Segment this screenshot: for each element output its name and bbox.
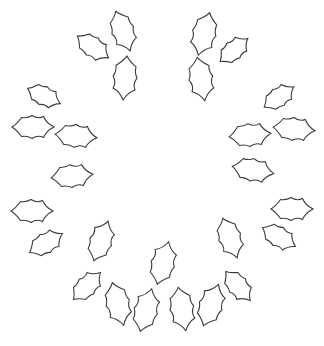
holly-leaf-outline [11,200,53,223]
holly-leaf-outline [50,163,94,189]
holly-leaf-icon [257,219,300,256]
holly-leaf-outline [111,55,139,101]
holly-leaf-icon [83,217,119,264]
holly-wreath-canvas [0,0,324,346]
holly-leaf-icon [212,214,248,261]
holly-leaf-icon [214,31,254,69]
holly-leaf-icon [24,225,67,262]
holly-leaf-outline [271,198,313,221]
holly-leaf-icon [66,265,108,307]
holly-leaf-outline [54,123,98,149]
holly-leaf-icon [11,200,53,223]
holly-leaf-icon [71,28,114,67]
holly-leaf-outline [24,225,67,262]
holly-leaf-outline [214,31,254,69]
holly-leaf-outline [257,219,300,256]
holly-leaf-icon [272,116,316,142]
holly-leaf-icon [50,163,94,189]
holly-leaf-outline [71,28,114,67]
holly-wreath [0,0,324,346]
holly-leaf-icon [111,55,139,101]
holly-leaf-icon [54,123,98,149]
holly-leaf-icon [12,116,54,139]
holly-leaf-outline [272,116,316,142]
holly-leaf-icon [166,285,197,332]
holly-leaf-outline [24,79,65,112]
holly-leaf-outline [105,7,141,54]
holly-leaf-icon [185,55,216,102]
holly-leaf-icon [259,79,300,116]
holly-leaf-outline [101,280,136,329]
holly-leaf-outline [212,214,248,261]
holly-leaf-outline [166,285,197,332]
holly-leaf-outline [228,122,272,148]
holly-leaf-outline [185,55,216,102]
holly-leaf-outline [230,155,275,185]
holly-leaf-icon [24,79,65,112]
holly-leaf-icon [271,198,313,221]
holly-leaf-icon [187,10,222,59]
holly-leaf-outline [129,286,164,335]
holly-leaf-icon [192,280,230,330]
holly-leaf-outline [192,280,230,330]
holly-leaf-icon [218,265,258,307]
holly-leaf-icon [105,7,141,54]
holly-leaf-outline [187,10,222,59]
holly-leaf-icon [101,280,136,329]
holly-leaf-icon [228,122,272,148]
holly-leaf-icon [146,239,181,288]
holly-leaf-outline [66,265,108,307]
holly-leaf-outline [83,217,119,264]
holly-leaf-outline [146,239,181,288]
holly-leaf-outline [259,79,300,116]
leaves-layer [11,7,316,334]
holly-leaf-icon [129,286,164,335]
holly-leaf-icon [230,155,275,185]
holly-leaf-outline [12,116,54,139]
holly-leaf-outline [218,265,258,307]
